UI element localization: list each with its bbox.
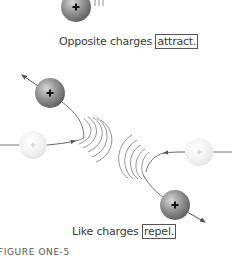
repel-term-box: repel. bbox=[142, 224, 176, 239]
left-faint-charge bbox=[0, 131, 84, 159]
opposite-caption-prefix: Opposite charges bbox=[59, 35, 155, 48]
top-motion-lines bbox=[95, 0, 103, 6]
left-field-waves bbox=[79, 117, 112, 162]
like-caption-prefix: Like charges bbox=[72, 225, 142, 238]
lower-right-charge bbox=[143, 175, 205, 222]
right-faint-charge bbox=[146, 138, 232, 172]
opposite-charges-caption: Opposite charges attract. bbox=[59, 35, 198, 48]
figure-label: FIGURE ONE-5 bbox=[0, 247, 70, 257]
upper-left-charge bbox=[22, 75, 84, 138]
like-charges-caption: Like charges repel. bbox=[72, 225, 176, 238]
attract-term-box: attract. bbox=[155, 34, 198, 49]
right-field-waves bbox=[119, 135, 149, 179]
top-charge-sphere bbox=[61, 0, 91, 22]
